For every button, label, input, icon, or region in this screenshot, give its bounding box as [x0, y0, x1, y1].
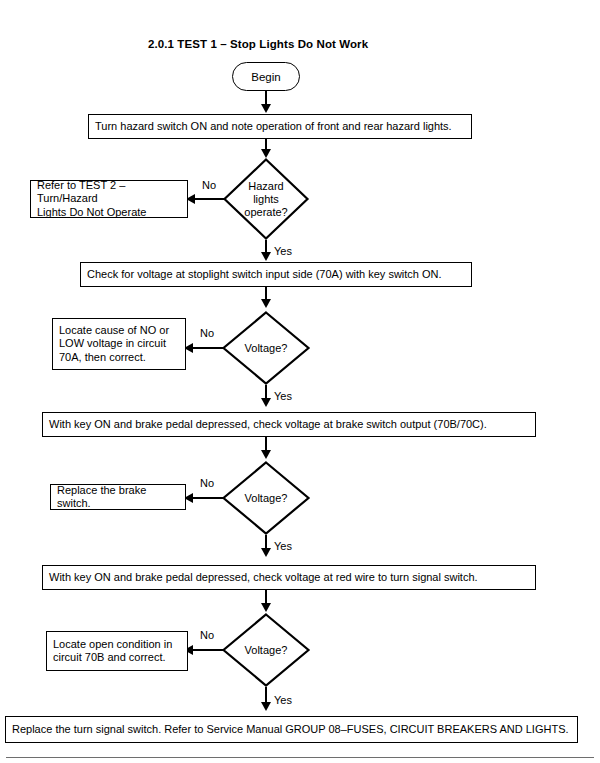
- process-box-final-step-text: Replace the turn signal switch. Refer to…: [12, 723, 569, 737]
- connector-decision1-no: [192, 198, 225, 200]
- decision-hazard-lights-operate: Hazard lights operate?: [223, 158, 309, 240]
- connector-decision3-no: [190, 497, 224, 499]
- branch-label-decision2-no: No: [200, 327, 214, 339]
- begin-terminator: Begin: [232, 62, 300, 91]
- outcome-2-line-2: LOW voltage in circuit: [59, 337, 166, 349]
- arrowhead-decision3-yes: [261, 548, 271, 557]
- process-box-step-2-text: Check for voltage at stoplight switch in…: [87, 268, 442, 282]
- decision-voltage-70a: Voltage?: [222, 311, 310, 385]
- connector-decision2-no: [190, 347, 224, 349]
- arrowhead-decision2-yes: [261, 398, 271, 407]
- process-box-outcome-3-text: Replace the brake switch.: [57, 484, 179, 511]
- arrowhead-step4-decision4: [261, 603, 271, 612]
- process-box-step-3: With key ON and brake pedal depressed, c…: [42, 412, 536, 437]
- arrowhead-step1-decision1: [261, 149, 271, 158]
- branch-label-decision3-no: No: [200, 477, 214, 489]
- outcome-4-line-2: circuit 70B and correct.: [53, 651, 166, 663]
- connector-decision4-no: [190, 649, 224, 651]
- branch-label-decision3-yes: Yes: [274, 540, 292, 552]
- flowchart-page: 2.0.1 TEST 1 – Stop Lights Do Not Work B…: [0, 0, 600, 763]
- process-box-outcome-3: Replace the brake switch.: [50, 484, 186, 510]
- connector-begin-step1: [265, 91, 267, 105]
- branch-label-decision1-no: No: [202, 179, 216, 191]
- process-box-step-1: Turn hazard switch ON and note operation…: [88, 114, 472, 139]
- process-box-step-4-text: With key ON and brake pedal depressed, c…: [49, 571, 478, 585]
- process-box-outcome-4-text: Locate open condition in circuit 70B and…: [53, 638, 172, 665]
- branch-label-decision4-no: No: [200, 629, 214, 641]
- process-box-step-4: With key ON and brake pedal depressed, c…: [42, 565, 536, 590]
- branch-label-decision4-yes: Yes: [274, 694, 292, 706]
- process-box-outcome-1: Refer to TEST 2 – Turn/Hazard Lights Do …: [30, 180, 188, 218]
- outcome-1-line-2: Lights Do Not Operate: [37, 206, 146, 218]
- arrowhead-step3-decision3: [261, 450, 271, 459]
- process-box-outcome-2: Locate cause of NO or LOW voltage in cir…: [52, 318, 186, 370]
- outcome-1-line-1: Refer to TEST 2 – Turn/Hazard: [37, 179, 125, 205]
- process-box-outcome-2-text: Locate cause of NO or LOW voltage in cir…: [59, 324, 169, 365]
- arrowhead-decision1-yes: [261, 252, 271, 261]
- process-box-final-step: Replace the turn signal switch. Refer to…: [5, 716, 578, 743]
- process-box-outcome-1-text: Refer to TEST 2 – Turn/Hazard Lights Do …: [37, 179, 181, 220]
- begin-terminator-label: Begin: [251, 71, 280, 83]
- process-box-outcome-4: Locate open condition in circuit 70B and…: [46, 631, 188, 671]
- process-box-step-3-text: With key ON and brake pedal depressed, c…: [49, 418, 487, 432]
- arrowhead-decision4-yes: [261, 702, 271, 711]
- arrowhead-begin-step1: [261, 104, 271, 113]
- process-box-step-2: Check for voltage at stoplight switch in…: [80, 262, 472, 287]
- outcome-2-line-1: Locate cause of NO or: [59, 324, 169, 336]
- decision-voltage-red-wire: Voltage?: [222, 613, 310, 687]
- decision-diamond-shape: [222, 613, 310, 687]
- decision-voltage-brake-switch: Voltage?: [222, 461, 310, 535]
- decision-diamond-shape: [223, 158, 309, 240]
- outcome-4-line-1: Locate open condition in: [53, 638, 172, 650]
- arrowhead-step2-decision2: [261, 299, 271, 308]
- decision-diamond-shape: [222, 311, 310, 385]
- branch-label-decision2-yes: Yes: [274, 390, 292, 402]
- outcome-2-line-3: 70A, then correct.: [59, 351, 146, 363]
- process-box-step-1-text: Turn hazard switch ON and note operation…: [95, 120, 452, 134]
- branch-label-decision1-yes: Yes: [274, 245, 292, 257]
- decision-diamond-shape: [222, 461, 310, 535]
- page-title: 2.0.1 TEST 1 – Stop Lights Do Not Work: [148, 38, 368, 50]
- footer-divider: [6, 757, 594, 758]
